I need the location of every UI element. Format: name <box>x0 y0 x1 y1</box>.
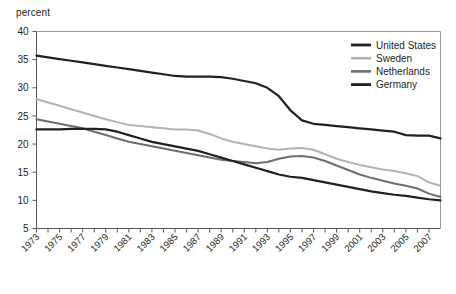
x-axis-tick-label: 1995 <box>273 231 296 254</box>
y-axis-tick-label: 35 <box>17 54 29 65</box>
y-axis-tick-label: 25 <box>17 111 29 122</box>
x-axis-tick-label: 1983 <box>134 231 157 254</box>
x-axis-tick-label: 1975 <box>42 231 65 254</box>
x-axis-tick-label: 2007 <box>411 231 434 254</box>
line-chart-plot: 510152025303540 197319751977197919811983… <box>0 0 456 294</box>
x-axis-tick-label: 1997 <box>296 231 319 254</box>
y-axis-tick-label: 20 <box>17 139 29 150</box>
x-axis-tick-label: 1987 <box>180 231 203 254</box>
y-axis-tick-label: 40 <box>17 26 29 37</box>
x-axis-tick-label: 1973 <box>19 231 42 254</box>
x-axis-tick-label: 1993 <box>250 231 273 254</box>
x-axis-tick-label: 1989 <box>203 231 226 254</box>
series-line-germany <box>37 129 441 200</box>
x-axis-tick-label: 1991 <box>226 231 249 254</box>
legend-label-united-states: United States <box>376 40 436 51</box>
x-axis-tick-label: 2005 <box>388 231 411 254</box>
x-axis-tick-label: 2003 <box>365 231 388 254</box>
x-axis-tick-label: 1999 <box>319 231 342 254</box>
x-axis-tick-label: 1977 <box>65 231 88 254</box>
x-axis-tick-label: 1981 <box>111 231 134 254</box>
legend-label-netherlands: Netherlands <box>376 66 430 77</box>
chart-container: percent 510152025303540 1973197519771979… <box>0 0 456 294</box>
y-axis-tick-label: 5 <box>23 223 29 234</box>
data-series-group <box>37 56 441 201</box>
y-axis-tick-label: 30 <box>17 82 29 93</box>
x-axis-tick-group: 1973197519771979198119831985198719891991… <box>19 229 434 254</box>
y-axis-tick-group: 510152025303540 <box>17 26 36 234</box>
x-axis-tick-label: 1985 <box>157 231 180 254</box>
x-axis-tick-label: 2001 <box>342 231 365 254</box>
legend-label-sweden: Sweden <box>376 53 412 64</box>
x-axis-tick-label: 1979 <box>88 231 111 254</box>
chart-legend: United StatesSwedenNetherlandsGermany <box>351 40 436 91</box>
y-axis-tick-label: 10 <box>17 195 29 206</box>
series-line-sweden <box>37 99 441 186</box>
legend-label-germany: Germany <box>376 79 417 90</box>
y-axis-tick-label: 15 <box>17 167 29 178</box>
